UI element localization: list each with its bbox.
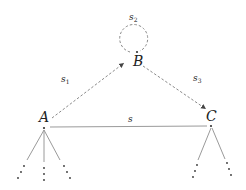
node-label-a: A [37, 109, 49, 125]
node-a-continuation-dots [17, 165, 71, 181]
edge-label-s3: s3 [193, 73, 202, 84]
node-label-b: B [132, 53, 143, 69]
edge-s1-a-to-b [52, 63, 124, 118]
node-label-c: C [206, 108, 217, 124]
edge-label-s2: s2 [129, 12, 138, 23]
edge-s-a-to-c [50, 126, 207, 127]
edge-label-s1: s1 [61, 74, 69, 85]
edge-label-s: s [128, 114, 133, 124]
node-c-dot [210, 125, 212, 127]
node-a-branches [27, 130, 60, 162]
node-c-branches [198, 128, 225, 160]
state-diagram: s2 s1 s3 s B A C [0, 0, 246, 190]
node-c-continuation-dots [192, 162, 232, 178]
edge-s2-self-loop [120, 24, 148, 53]
node-a-dot [43, 127, 45, 129]
